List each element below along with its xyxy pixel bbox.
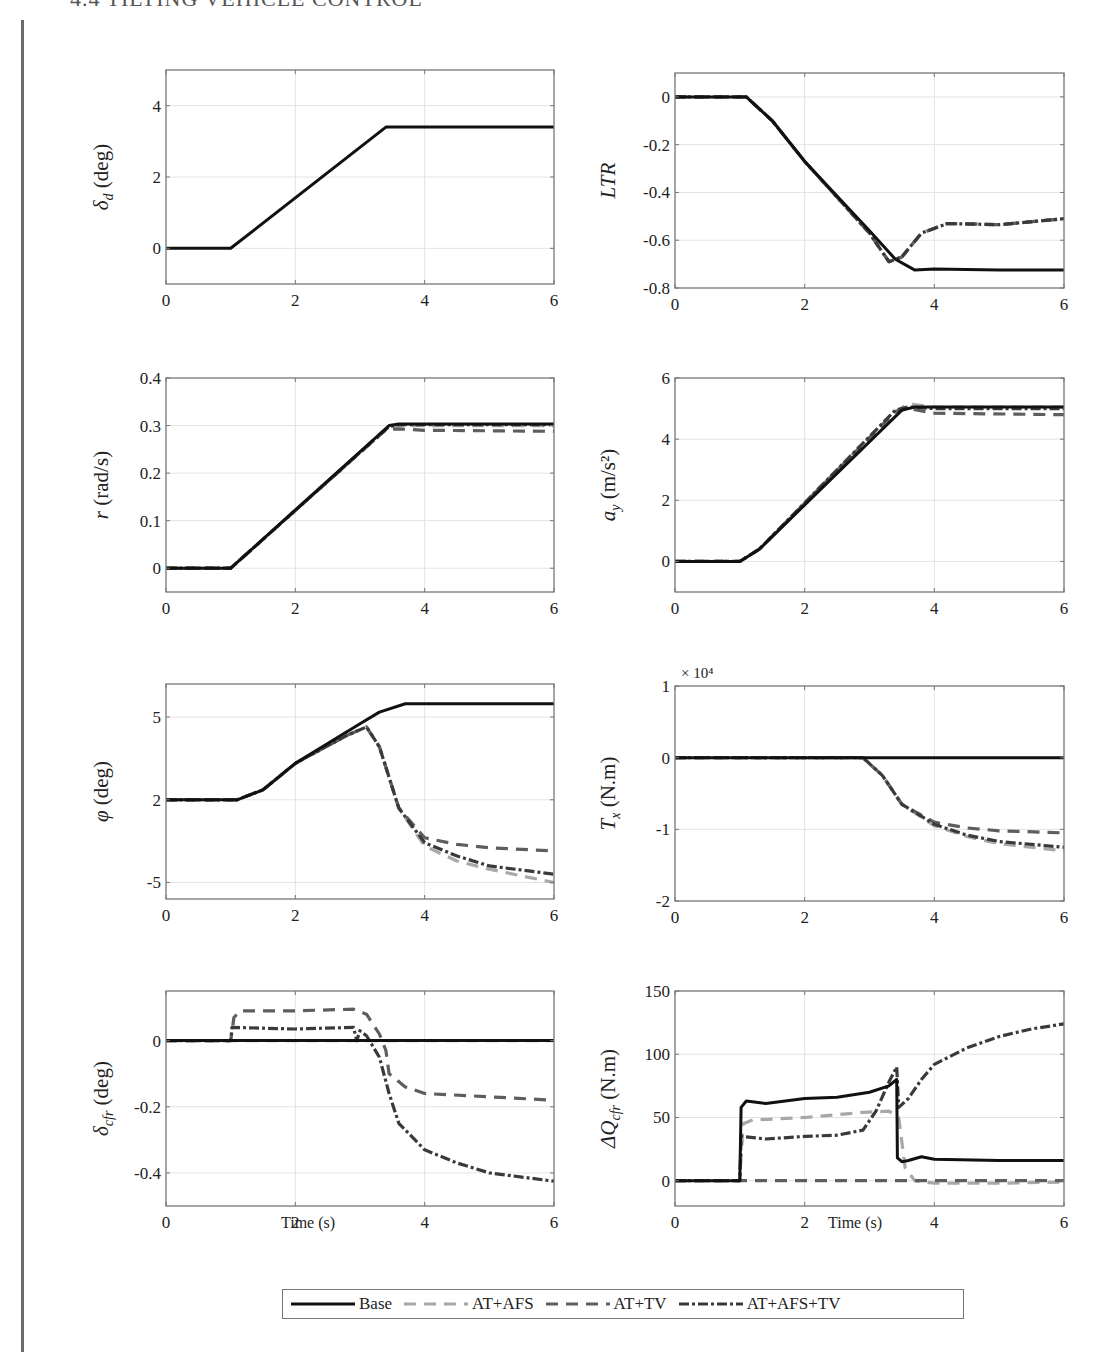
x-tick-label: 2 (800, 1213, 809, 1232)
x-tick-label: 6 (1060, 908, 1069, 927)
y-tick-label: -0.2 (134, 1098, 161, 1117)
legend-label: AT+AFS (472, 1294, 534, 1314)
x-tick-label: 0 (162, 599, 171, 618)
y-tick-label: 0 (662, 552, 671, 571)
y-tick-label: 0.3 (140, 417, 161, 436)
x-tick-label: 4 (420, 599, 429, 618)
y-axis-label: δd (deg) (89, 144, 116, 210)
y-tick-label: -0.4 (134, 1164, 161, 1183)
y-tick-label: 0.4 (140, 369, 162, 388)
legend-label: Base (359, 1294, 392, 1314)
y-tick-label: -0.4 (643, 183, 670, 202)
y-tick-label: 100 (645, 1045, 671, 1064)
x-tick-label: 2 (800, 908, 809, 927)
y-tick-label: 0 (662, 1172, 671, 1191)
chart-LTR: 02460-0.2-0.4-0.6-0.8LTR (596, 73, 1068, 314)
y-axis-label: ay (m/s²) (596, 449, 623, 522)
x-axis-label-right: Time (s) (828, 1214, 882, 1232)
dashed-line-icon (546, 1299, 610, 1309)
x-tick-label: 0 (162, 1213, 171, 1232)
y-tick-label: 1 (662, 677, 671, 696)
legend-item-at-tv: AT+TV (546, 1294, 667, 1314)
x-tick-label: 6 (550, 291, 559, 310)
legend-item-at-afs-tv: AT+AFS+TV (679, 1294, 841, 1314)
x-tick-label: 2 (800, 295, 809, 314)
x-tick-label: 0 (671, 599, 680, 618)
y-axis-label: r (rad/s) (89, 451, 113, 519)
y-tick-label: 0 (662, 749, 671, 768)
y-tick-label: 0 (153, 239, 162, 258)
y-tick-label: -5 (147, 873, 161, 892)
y-tick-label: 4 (153, 97, 162, 116)
dash-dot-line-icon (679, 1299, 743, 1309)
x-tick-label: 0 (671, 295, 680, 314)
x-tick-label: 2 (800, 599, 809, 618)
x-tick-label: 4 (930, 1213, 939, 1232)
y-tick-label: -1 (656, 820, 670, 839)
axis-scale-label: × 10⁴ (681, 665, 713, 681)
y-axis-label: δcfr (deg) (89, 1061, 116, 1136)
x-tick-label: 2 (291, 291, 300, 310)
x-tick-label: 6 (550, 599, 559, 618)
y-tick-label: -0.8 (643, 279, 670, 298)
x-tick-label: 6 (550, 906, 559, 925)
figure-grid: 0246024δd (deg)02460-0.2-0.4-0.6-0.8LTR0… (0, 0, 1102, 1355)
chart-dQcfr: 0246050100150ΔQcfr (N.m) (596, 982, 1068, 1232)
y-tick-label: 4 (662, 430, 671, 449)
x-tick-label: 0 (671, 1213, 680, 1232)
x-tick-label: 4 (420, 291, 429, 310)
x-tick-label: 0 (162, 291, 171, 310)
x-tick-label: 6 (550, 1213, 559, 1232)
chart-r: 024600.10.20.30.4r (rad/s) (89, 369, 558, 618)
chart-ay: 02460246ay (m/s²) (596, 369, 1068, 618)
x-tick-label: 6 (1060, 1213, 1069, 1232)
x-tick-label: 2 (291, 599, 300, 618)
x-tick-label: 6 (1060, 599, 1069, 618)
x-tick-label: 4 (930, 599, 939, 618)
chart-delta_cfr: 02460-0.2-0.4δcfr (deg) (89, 991, 558, 1232)
y-tick-label: 150 (645, 982, 671, 1001)
legend-item-at-afs: AT+AFS (404, 1294, 534, 1314)
chart-Tx: 024610-1-2× 10⁴Tx (N.m) (596, 665, 1068, 927)
y-tick-label: -2 (656, 892, 670, 911)
y-tick-label: -0.6 (643, 231, 670, 250)
legend-item-base: Base (291, 1294, 392, 1314)
y-tick-label: 50 (653, 1108, 670, 1127)
solid-line-icon (291, 1299, 355, 1309)
legend-label: AT+AFS+TV (747, 1294, 841, 1314)
dashed-line-icon (404, 1299, 468, 1309)
legend: Base AT+AFS AT+TV AT+AFS+TV (282, 1289, 964, 1319)
x-axis-label-left: Time (s) (281, 1214, 335, 1232)
y-axis-label: Tx (N.m) (596, 757, 623, 831)
x-tick-label: 4 (930, 908, 939, 927)
x-tick-label: 2 (291, 906, 300, 925)
y-axis-label: φ (deg) (89, 761, 113, 822)
y-tick-label: 0.2 (140, 464, 161, 483)
y-tick-label: -0.2 (643, 136, 670, 155)
y-tick-label: 0 (153, 1032, 162, 1051)
y-tick-label: 0 (153, 559, 162, 578)
legend-label: AT+TV (614, 1294, 667, 1314)
y-tick-label: 6 (662, 369, 671, 388)
y-tick-label: 2 (153, 791, 162, 810)
y-tick-label: 2 (662, 491, 671, 510)
y-tick-label: 0 (662, 88, 671, 107)
x-tick-label: 4 (420, 1213, 429, 1232)
chart-delta_d: 0246024δd (deg) (89, 70, 558, 310)
y-tick-label: 0.1 (140, 512, 161, 531)
x-tick-label: 4 (930, 295, 939, 314)
x-tick-label: 0 (671, 908, 680, 927)
x-tick-label: 6 (1060, 295, 1069, 314)
x-tick-label: 0 (162, 906, 171, 925)
x-tick-label: 4 (420, 906, 429, 925)
y-axis-label: LTR (596, 162, 620, 199)
y-axis-label: ΔQcfr (N.m) (596, 1049, 623, 1149)
chart-phi: 024652-5φ (deg) (89, 684, 558, 925)
y-tick-label: 2 (153, 168, 162, 187)
y-tick-label: 5 (153, 708, 162, 727)
